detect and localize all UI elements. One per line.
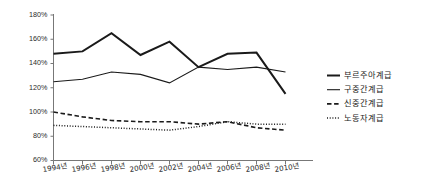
- x-tick-label: 2006년: [216, 161, 242, 174]
- y-tick-label: 100%: [29, 107, 48, 116]
- line-chart-figure: 180%160%140%120%100%80%60% 1994년1996년199…: [0, 0, 421, 189]
- x-axis: 1994년1996년1998년2000년2002년2004년2006년2008년…: [42, 161, 313, 175]
- x-tick-label: 2010년: [274, 161, 300, 174]
- data-series-group: [54, 33, 286, 130]
- series-line-2: [54, 67, 286, 83]
- x-tick-label: 1996년: [71, 161, 97, 174]
- legend-label-3: 신중간계급: [344, 98, 384, 108]
- legend-label-4: 노동자계급: [344, 113, 384, 123]
- legend-label-1: 부르주아계급: [344, 70, 392, 80]
- legend-label-2: 구중간계급: [344, 84, 384, 94]
- y-tick-label: 180%: [29, 10, 48, 19]
- x-tick-label: 2000년: [129, 161, 155, 174]
- x-tick-label: 2008년: [245, 161, 271, 174]
- y-tick-label: 80%: [33, 131, 48, 140]
- chart-canvas: 180%160%140%120%100%80%60% 1994년1996년199…: [0, 0, 421, 189]
- y-tick-label: 60%: [33, 155, 48, 164]
- x-tick-label: 2004년: [187, 161, 213, 174]
- y-tick-label: 120%: [29, 83, 48, 92]
- x-tick-label: 1998년: [100, 161, 126, 174]
- y-tick-label: 140%: [29, 58, 48, 67]
- y-axis-tick-labels: 180%160%140%120%100%80%60%: [29, 10, 48, 165]
- y-tick-label: 160%: [29, 34, 48, 43]
- x-axis-tick-labels: 1994년1996년1998년2000년2002년2004년2006년2008년…: [42, 161, 300, 174]
- chart-legend: 부르주아계급구중간계급신중간계급노동자계급: [327, 70, 392, 123]
- y-axis: 180%160%140%120%100%80%60%: [29, 10, 53, 165]
- series-line-3: [54, 112, 286, 130]
- series-line-4: [54, 122, 286, 130]
- x-tick-label: 2002년: [158, 161, 184, 174]
- series-line-1: [54, 33, 286, 94]
